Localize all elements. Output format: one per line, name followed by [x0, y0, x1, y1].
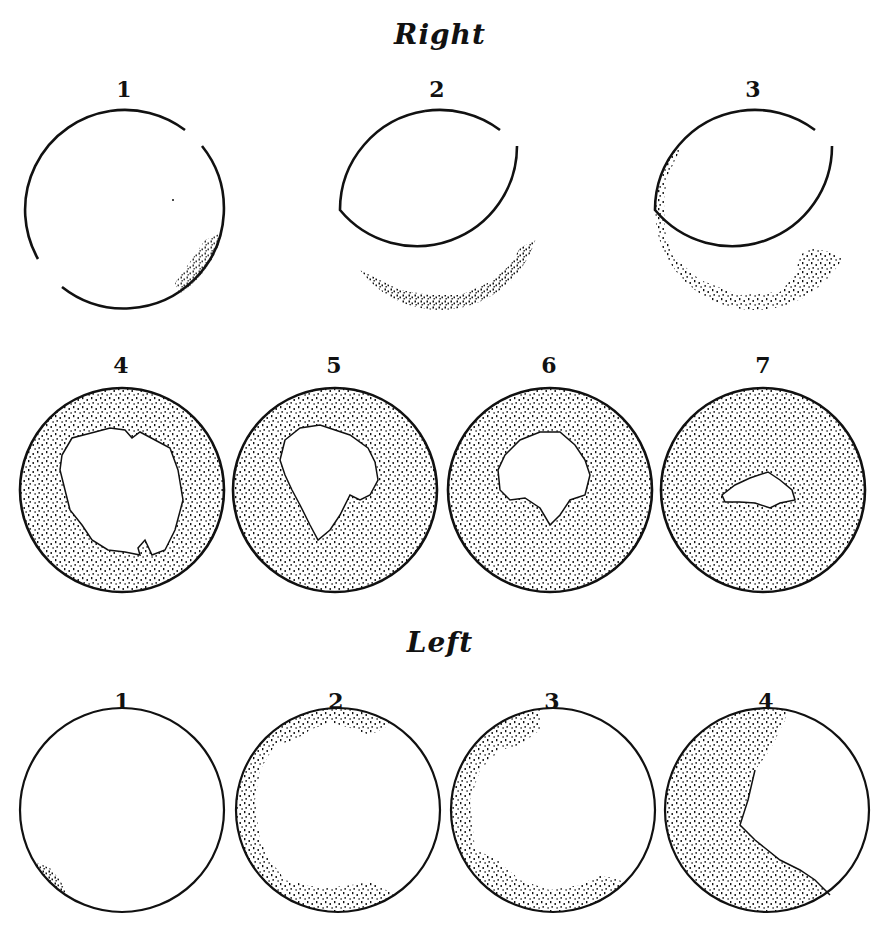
field-right-4	[20, 388, 224, 592]
field-right-7	[661, 388, 865, 592]
visual-field-diagram	[0, 0, 880, 940]
field-left-1	[20, 708, 224, 915]
field-right-1	[25, 110, 230, 309]
field-left-2	[230, 700, 440, 930]
field-right-3	[640, 110, 860, 320]
field-left-3	[445, 700, 660, 930]
field-left-4	[660, 700, 880, 930]
field-right-2	[340, 110, 545, 320]
field-right-6	[448, 388, 652, 592]
field-right-5	[233, 388, 437, 592]
